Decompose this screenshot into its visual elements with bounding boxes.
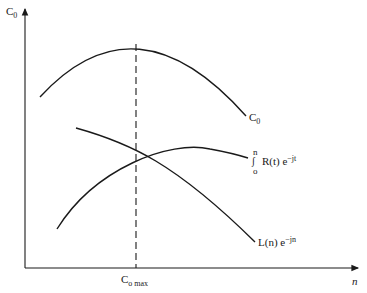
r-label-sup: −jt — [287, 154, 296, 163]
y-axis-label-sub: 0 — [13, 11, 17, 20]
c0-curve — [40, 49, 246, 116]
l-label-sup: −jn — [285, 235, 296, 244]
x-axis-label: n — [352, 276, 358, 287]
l-curve — [76, 128, 255, 242]
chart-canvas — [0, 0, 367, 293]
l-curve-label: L(n) e−jn — [258, 236, 296, 248]
r-curve-label: R(t) e−jt — [262, 155, 296, 167]
l-label-main: L(n) e — [258, 236, 285, 248]
c0-label-sub: 0 — [256, 117, 260, 126]
integral-lower-limit: o — [253, 167, 258, 176]
integral-symbol: ∫ — [252, 156, 255, 166]
x-tick-co-max: Co max — [121, 274, 148, 288]
r-label-main: R(t) e — [262, 155, 287, 167]
y-axis-label: C0 — [6, 6, 17, 20]
x-tick-sub: o max — [128, 279, 148, 288]
c0-curve-label: C0 — [249, 112, 260, 126]
